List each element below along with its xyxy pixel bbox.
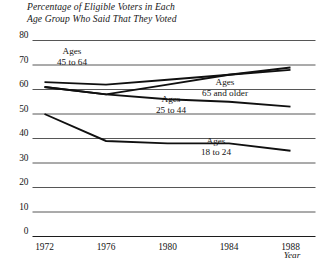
series-line-1 [45, 67, 291, 94]
y-tick-80: 80 [19, 30, 29, 40]
series-label-2-line-2: 25 to 44 [156, 105, 187, 115]
series-line-3 [45, 114, 291, 151]
series-label-3-line-1: Ages [207, 136, 226, 146]
series-label-2-line-1: Ages [162, 94, 181, 104]
x-axis-title: Year [284, 250, 301, 260]
y-tick-40: 40 [19, 128, 29, 138]
y-tick-10: 10 [19, 202, 29, 212]
y-tick-20: 20 [19, 177, 29, 187]
y-tick-60: 60 [19, 79, 29, 89]
y-tick-50: 50 [19, 104, 29, 114]
y-tick-0: 0 [24, 226, 29, 236]
x-tick-1976: 1976 [97, 242, 116, 252]
series-label-1-line-2: 65 and older [202, 88, 248, 98]
series-label-0-line-1: Ages [63, 46, 82, 56]
series-label-0-line-2: 45 to 64 [57, 57, 88, 67]
series-label-1-line-1: Ages [216, 77, 235, 87]
y-tick-70: 70 [19, 55, 29, 65]
series-label-3-line-2: 18 to 24 [201, 147, 232, 157]
x-tick-1984: 1984 [220, 242, 239, 252]
x-axis-tick-labels: 19721976198019841988 [35, 242, 300, 252]
y-axis-tick-labels: 01020304050607080 [19, 30, 29, 236]
x-tick-1972: 1972 [35, 242, 54, 252]
y-tick-30: 30 [19, 153, 29, 163]
chart-figure: Percentage of Eligible Voters in Each Ag… [0, 0, 321, 273]
x-tick-1980: 1980 [158, 242, 177, 252]
line-chart-plot: 01020304050607080 19721976198019841988 A… [0, 0, 321, 273]
